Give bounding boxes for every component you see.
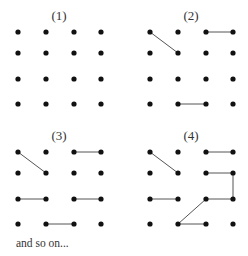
grid-dot xyxy=(175,101,180,106)
grid-dot xyxy=(147,101,152,106)
grid-dot xyxy=(230,101,235,106)
grid-dot xyxy=(175,149,180,154)
grid-dot xyxy=(203,196,208,201)
grid-dot xyxy=(15,50,20,55)
grid-dot xyxy=(98,170,103,175)
grid-dot xyxy=(230,149,235,154)
grid-dot xyxy=(147,29,152,34)
edge-line xyxy=(150,152,178,173)
grid-dot xyxy=(43,101,48,106)
grid-dot xyxy=(203,170,208,175)
grid-dot xyxy=(203,221,208,226)
caption-and-so-on: and so on... xyxy=(16,237,69,249)
grid-dot xyxy=(43,76,48,81)
grid-dot xyxy=(98,196,103,201)
grid-dot xyxy=(98,149,103,154)
dot-grid-diagram: (1)(2)(3)(4) xyxy=(0,0,248,256)
grid-dot xyxy=(203,149,208,154)
grid-dot xyxy=(15,29,20,34)
grid-dot xyxy=(43,196,48,201)
grid-dot xyxy=(71,50,76,55)
grid-dot xyxy=(175,76,180,81)
grid-dot xyxy=(230,29,235,34)
grid-dot xyxy=(15,221,20,226)
grid-dot xyxy=(230,50,235,55)
grid-dot xyxy=(43,170,48,175)
grid-dot xyxy=(147,221,152,226)
panel-3: (3) xyxy=(15,128,103,227)
grid-dot xyxy=(98,221,103,226)
grid-dot xyxy=(43,50,48,55)
grid-dot xyxy=(175,50,180,55)
grid-dot xyxy=(230,76,235,81)
panel-2: (2) xyxy=(147,8,235,107)
grid-dot xyxy=(15,101,20,106)
grid-dot xyxy=(71,149,76,154)
grid-dot xyxy=(147,196,152,201)
grid-dot xyxy=(15,170,20,175)
panel-label: (1) xyxy=(51,8,66,23)
grid-dot xyxy=(98,29,103,34)
panel-4: (4) xyxy=(147,128,235,227)
grid-dot xyxy=(147,50,152,55)
grid-dot xyxy=(71,76,76,81)
grid-dot xyxy=(98,101,103,106)
grid-dot xyxy=(203,76,208,81)
grid-dot xyxy=(230,221,235,226)
edge-line xyxy=(178,199,206,224)
grid-dot xyxy=(147,76,152,81)
grid-dot xyxy=(15,76,20,81)
grid-dot xyxy=(43,29,48,34)
grid-dot xyxy=(203,101,208,106)
grid-dot xyxy=(71,29,76,34)
grid-dot xyxy=(203,50,208,55)
grid-dot xyxy=(43,221,48,226)
grid-dot xyxy=(98,76,103,81)
grid-dot xyxy=(15,196,20,201)
panel-label: (2) xyxy=(183,8,198,23)
grid-dot xyxy=(98,50,103,55)
grid-dot xyxy=(71,101,76,106)
grid-dot xyxy=(71,196,76,201)
grid-dot xyxy=(147,170,152,175)
grid-dot xyxy=(147,149,152,154)
grid-dot xyxy=(230,196,235,201)
grid-dot xyxy=(43,149,48,154)
grid-dot xyxy=(175,170,180,175)
grid-dot xyxy=(15,149,20,154)
panel-label: (3) xyxy=(51,128,66,143)
panel-1: (1) xyxy=(15,8,103,107)
edge-line xyxy=(150,32,178,53)
grid-dot xyxy=(203,29,208,34)
grid-dot xyxy=(71,170,76,175)
grid-dot xyxy=(71,221,76,226)
edge-line xyxy=(18,152,46,173)
panel-label: (4) xyxy=(183,128,198,143)
grid-dot xyxy=(175,196,180,201)
grid-dot xyxy=(230,170,235,175)
grid-dot xyxy=(175,29,180,34)
grid-dot xyxy=(175,221,180,226)
